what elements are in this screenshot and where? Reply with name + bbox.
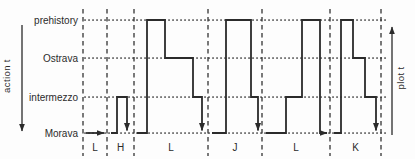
level-label-Morava: Morava [45,128,79,139]
signal-section-1-H [111,97,127,133]
signal-section-3-J [212,20,258,133]
section-label-3: J [233,142,238,153]
step-signal-layer [86,20,376,133]
section-label-2: L [168,142,174,153]
action-time-vs-plot-time-chart: action t plot t prehistoryOstravainterme… [0,0,415,159]
section-label-0: L [92,142,98,153]
section-dividers [83,9,381,156]
section-label-5: K [352,142,359,153]
signal-section-4-L [266,20,327,133]
level-label-Ostrava: Ostrava [43,53,78,64]
section-label-4: L [293,142,299,153]
signal-section-2-L [137,20,202,133]
axis-arrows [22,25,392,135]
level-label-prehistory: prehistory [34,15,78,26]
action-time-axis-label: action t [1,59,12,93]
plot-time-axis-label: plot t [395,67,406,90]
level-label-intermezzo: intermezzo [29,92,78,103]
chart-canvas: action t plot t prehistoryOstravainterme… [0,0,415,159]
signal-section-5-K [334,20,376,133]
section-label-1: H [117,142,124,153]
